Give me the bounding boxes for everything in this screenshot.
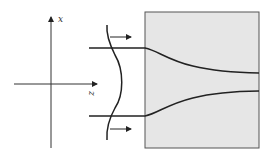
beam-diagram: x z [0, 0, 274, 161]
coordinate-axes: x z [14, 14, 97, 148]
medium-box [145, 12, 259, 148]
wavefront-curve [107, 25, 122, 140]
z-axis-label: z [87, 90, 97, 96]
x-axis-label: x [58, 14, 63, 24]
